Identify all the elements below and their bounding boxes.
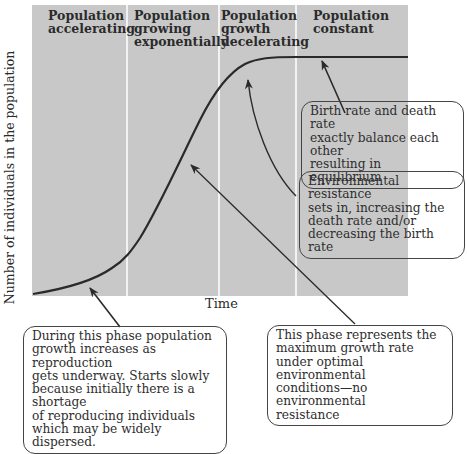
callout-lag: During this phase population growth incr… <box>23 326 227 454</box>
callout-line: conditions—no environmental <box>276 382 444 409</box>
callout-line: growth increases as reproduction <box>32 343 218 370</box>
phase-label-line: constant <box>313 22 389 35</box>
callout-exponential: This phase represents the maximum growth… <box>267 325 453 426</box>
callout-line: death rate and/or <box>308 215 456 228</box>
x-axis-label: Time <box>205 296 238 311</box>
phase-label-exponential: Population growing exponentially <box>134 9 228 48</box>
callout-line: maximum growth rate <box>276 342 444 355</box>
phase-divider-1 <box>126 5 128 296</box>
callout-line: During this phase population <box>32 330 218 343</box>
phase-label-constant: Population constant <box>313 9 389 35</box>
callout-line: decreasing the birth rate <box>308 228 456 255</box>
phase-label-accelerating: Population accelerating <box>48 9 135 35</box>
callout-line: of reproducing individuals <box>32 410 218 423</box>
callout-line: sets in, increasing the <box>308 202 456 215</box>
y-axis-label: Number of individuals in the population <box>2 43 17 313</box>
callout-resistance: Environmental resistance sets in, increa… <box>299 171 465 259</box>
callout-line: because initially there is a shortage <box>32 383 218 410</box>
phase-label-line: exponentially <box>134 35 228 48</box>
callout-line: Birth rate and death rate <box>310 105 455 132</box>
callout-line: resistance <box>276 409 444 422</box>
phase-label-line: accelerating <box>48 22 135 35</box>
callout-line: gets underway. Starts slowly <box>32 370 218 383</box>
callout-line: which may be widely dispersed. <box>32 423 218 450</box>
phase-label-decelerating: Population growth decelerating <box>221 9 309 48</box>
phase-label-line: decelerating <box>221 35 309 48</box>
callout-line: Environmental resistance <box>308 175 456 202</box>
callout-line: under optimal environmental <box>276 356 444 383</box>
callout-line: This phase represents the <box>276 329 444 342</box>
callout-line: exactly balance each other <box>310 132 455 159</box>
